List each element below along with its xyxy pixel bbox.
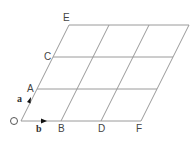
horizontal-grid-lines: [21, 25, 189, 121]
col-line-2: [101, 25, 149, 121]
vector-a-arrowhead-icon: [27, 97, 31, 104]
label-D: D: [98, 123, 105, 134]
label-B: B: [58, 123, 65, 134]
label-E: E: [63, 12, 70, 23]
vector-b-arrowhead-icon: [41, 119, 47, 124]
slanted-grid-lines: [21, 25, 189, 121]
vector-b-label: b: [36, 123, 42, 134]
col-line-1: [61, 25, 109, 121]
label-F: F: [136, 123, 142, 134]
diagram-canvas: E C A B D F a b: [0, 0, 195, 144]
label-A: A: [27, 83, 34, 94]
origin-marker: [11, 118, 18, 125]
vector-a-label: a: [17, 93, 22, 104]
label-C: C: [44, 51, 51, 62]
col-line-3: [141, 25, 189, 121]
col-line-0: [21, 25, 69, 121]
parallelogram-grid-diagram: E C A B D F a b: [0, 0, 195, 144]
